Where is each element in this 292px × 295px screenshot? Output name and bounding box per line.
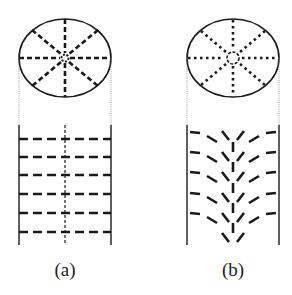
panel-a-label: (a)	[54, 259, 75, 281]
chevron-row	[190, 162, 276, 182]
panel-b-radial-lines	[188, 20, 278, 96]
panel-a: (a)	[19, 19, 111, 281]
chevron-row	[190, 131, 276, 142]
chevron-row	[190, 183, 276, 203]
panel-b-label: (b)	[222, 259, 244, 281]
panel-b-chevron-rows	[190, 131, 276, 242]
panel-b-center-ring	[227, 52, 239, 64]
panel-a-radial-lines	[19, 19, 111, 97]
chevron-row	[190, 142, 276, 162]
panel-a-center-ring	[62, 55, 69, 62]
chevron-row	[190, 203, 276, 223]
chevron-row	[222, 223, 244, 242]
figure-canvas: (a)	[0, 0, 292, 295]
panel-b: (b)	[187, 19, 279, 281]
